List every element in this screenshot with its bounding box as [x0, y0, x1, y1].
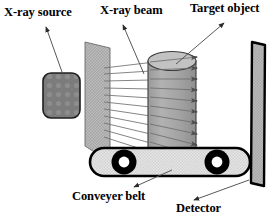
detector-panel [251, 42, 265, 186]
target-object-cylinder [148, 52, 196, 157]
label-target-object: Target object [190, 2, 259, 15]
leader-xray-beam [123, 25, 144, 74]
label-detector: Detector [176, 202, 221, 215]
label-xray-source: X-ray source [4, 6, 72, 19]
belt-roller-left [112, 150, 137, 175]
diagram-canvas [0, 0, 276, 219]
label-xray-beam: X-ray beam [100, 4, 163, 17]
conveyer-belt [90, 148, 250, 176]
leader-target-object [176, 23, 224, 64]
belt-roller-right [205, 150, 230, 175]
leader-detector [194, 180, 249, 200]
leader-xray-source [46, 27, 62, 72]
xray-source-body [43, 73, 80, 118]
xray-inspection-diagram: X-ray source X-ray beam Target object Co… [0, 0, 276, 219]
label-conveyer-belt: Conveyer belt [72, 190, 145, 203]
